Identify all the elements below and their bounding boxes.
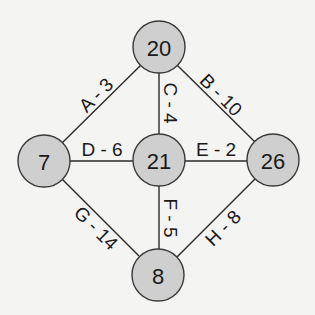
edge-d-label: D - 6 [81, 139, 122, 160]
node-7-label: 7 [38, 150, 50, 175]
node-20-label: 20 [147, 36, 171, 61]
edge-e-label: E - 2 [196, 139, 236, 160]
node-8-label: 8 [152, 264, 164, 289]
node-7: 7 [18, 135, 70, 187]
edge-g-label: G - 14 [70, 202, 122, 254]
node-8: 8 [132, 249, 184, 301]
graph-diagram: A - 3 B - 10 C - 4 D - 6 E - 2 F - 5 G -… [0, 0, 315, 315]
node-26-label: 26 [261, 149, 285, 174]
edge-f-label: F - 5 [160, 198, 181, 237]
edge-h-label: H - 8 [201, 206, 245, 250]
graph-svg: A - 3 B - 10 C - 4 D - 6 E - 2 F - 5 G -… [0, 0, 315, 315]
node-26: 26 [247, 134, 299, 186]
node-21: 21 [133, 134, 185, 186]
node-21-label: 21 [147, 149, 171, 174]
edge-c-label: C - 4 [160, 82, 181, 124]
node-20: 20 [133, 21, 185, 73]
edge-b-label: B - 10 [196, 70, 247, 121]
